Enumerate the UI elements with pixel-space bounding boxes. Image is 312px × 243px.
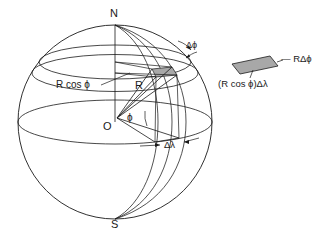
radius-line-3 — [117, 75, 177, 118]
surface-patch — [152, 67, 177, 77]
delta-lambda-arrowhead-left — [155, 143, 160, 147]
latitude-plane-line-2 — [115, 62, 172, 67]
projection-line-2 — [177, 75, 179, 138]
label-latitude-radius: R cos ϕ — [56, 80, 90, 90]
label-inset-r-cos-phi-delta-lambda: (R cos ϕ)Δλ — [218, 79, 268, 89]
inset-surface-element — [232, 56, 278, 74]
label-radius: R — [135, 80, 143, 91]
label-origin: O — [103, 121, 112, 132]
spherical-geometry-figure: N S O R ϕ R cos ϕ Δϕ Δλ — RΔϕ (R cos ϕ)Δ… — [0, 0, 312, 243]
label-inset-r-delta-phi: — RΔϕ — [281, 54, 312, 64]
meridian-arc-3 — [115, 25, 186, 219]
label-delta-phi: Δϕ — [186, 41, 197, 50]
label-delta-lambda: Δλ — [164, 140, 175, 150]
projection-line-1 — [155, 77, 156, 142]
phi-angle-arc — [145, 111, 147, 126]
label-north-pole: N — [110, 8, 118, 19]
figure-canvas — [0, 0, 312, 243]
label-south-pole: S — [111, 219, 118, 230]
equator-radius-line-1 — [117, 118, 155, 142]
label-angle-phi: ϕ — [127, 113, 133, 123]
